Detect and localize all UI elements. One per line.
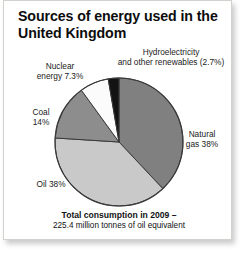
slice-label-natural-gas: Natural gas 38% (176, 129, 228, 149)
slice-label-hydroelectricity: Hydroelectricity and other renewables (2… (110, 47, 232, 67)
slice-label-nuclear: Nuclear energy 7.3% (24, 61, 96, 81)
chart-footer: Total consumption in 2009 – 225.4 millio… (18, 210, 220, 232)
slice-label-coal: Coal 14% (19, 107, 63, 127)
footer-total-label: Total consumption in 2009 – (18, 210, 220, 221)
slice-label-oil: Oil 38% (24, 179, 78, 189)
footer-total-value: 225.4 million tonnes of oil equivalent (18, 221, 220, 232)
chart-card: Sources of energy used in the United Kin… (3, 0, 232, 240)
